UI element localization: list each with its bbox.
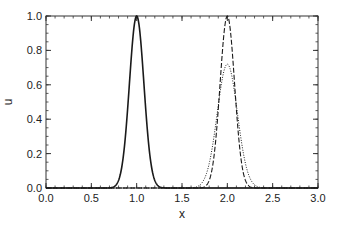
plot-border bbox=[46, 16, 318, 188]
series-exact bbox=[46, 16, 318, 188]
x-tick-label: 0.5 bbox=[84, 192, 99, 204]
y-axis-label: u bbox=[1, 99, 15, 106]
series-numerical bbox=[46, 64, 318, 188]
x-tick-label: 2.5 bbox=[265, 192, 280, 204]
chart: 0.00.51.01.52.02.53.00.00.20.40.60.81.0 … bbox=[0, 0, 340, 226]
data-series bbox=[46, 16, 318, 188]
plot-area bbox=[46, 16, 318, 188]
x-axis-label: x bbox=[179, 207, 185, 221]
y-tick-label: 1.0 bbox=[27, 10, 42, 22]
y-tick-label: 0.6 bbox=[27, 79, 42, 91]
y-tick-label: 0.0 bbox=[27, 182, 42, 194]
y-tick-label: 0.4 bbox=[27, 113, 42, 125]
axis-ticks: 0.00.51.01.52.02.53.00.00.20.40.60.81.0 bbox=[27, 10, 326, 204]
series-initial bbox=[46, 16, 318, 188]
x-tick-label: 1.5 bbox=[174, 192, 189, 204]
y-tick-label: 0.8 bbox=[27, 44, 42, 56]
x-tick-label: 2.0 bbox=[220, 192, 235, 204]
x-tick-label: 1.0 bbox=[129, 192, 144, 204]
y-tick-label: 0.2 bbox=[27, 148, 42, 160]
x-tick-label: 3.0 bbox=[310, 192, 325, 204]
